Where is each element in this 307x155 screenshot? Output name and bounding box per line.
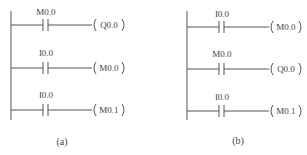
coil-label: M0.1 (276, 106, 295, 116)
coil-icon (94, 104, 96, 116)
contact-label: I0.0 (215, 92, 230, 102)
ladder-diagram-b: I0.0 M0.0 M0.0 Q0.0 I0.0 M0.1 (b) (187, 9, 301, 147)
coil-icon (271, 63, 273, 75)
ladder-diagram-a: M0.0 Q0.0 I0.0 M0.0 I0.0 M0.1 (a) (11, 7, 124, 148)
contact-label: M0.0 (212, 49, 232, 59)
ladder-diagrams: M0.0 Q0.0 I0.0 M0.0 I0.0 M0.1 (a) (0, 0, 307, 155)
coil-icon (271, 21, 273, 33)
coil-icon (94, 62, 96, 74)
rung: M0.0 Q0.0 (187, 49, 301, 75)
coil-label: Q0.0 (100, 20, 118, 30)
contact-label: I0.0 (215, 9, 230, 19)
caption: (a) (56, 136, 67, 148)
coil-icon (271, 105, 273, 117)
coil-label: M0.0 (276, 22, 296, 32)
contact-label: I0.0 (39, 48, 54, 58)
rung: M0.0 Q0.0 (11, 7, 124, 31)
coil-label: M0.0 (99, 63, 119, 73)
contact-label: M0.0 (36, 7, 56, 17)
rung: I0.0 M0.1 (187, 92, 301, 117)
contact-label: I0.0 (39, 90, 54, 100)
caption: (b) (232, 135, 244, 147)
rung: I0.0 M0.0 (187, 9, 301, 33)
coil-label: Q0.0 (277, 64, 295, 74)
rung: I0.0 M0.1 (11, 90, 124, 116)
coil-label: M0.1 (99, 105, 118, 115)
rung: I0.0 M0.0 (11, 48, 124, 74)
coil-icon (94, 19, 96, 31)
